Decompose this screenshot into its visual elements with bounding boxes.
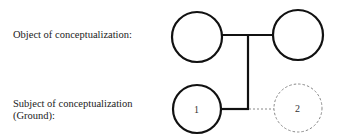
conceptualization-diagram: 1 2: [0, 0, 339, 139]
ground-node-2-label: 2: [295, 103, 300, 114]
object-left-node: [172, 12, 222, 62]
object-right-node: [273, 10, 323, 60]
ground-node-1-label: 1: [194, 104, 199, 115]
